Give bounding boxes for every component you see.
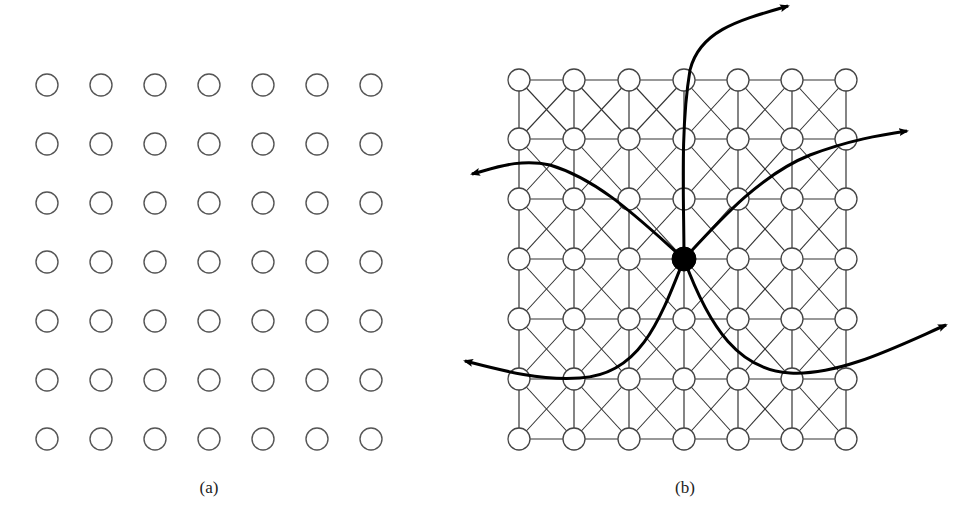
node-a (360, 428, 382, 450)
node-a (198, 133, 220, 155)
node-a (198, 369, 220, 391)
node-a (360, 133, 382, 155)
node-b (618, 368, 640, 390)
node-b (508, 428, 530, 450)
node-b (781, 188, 803, 210)
node-a (90, 133, 112, 155)
node-b (781, 128, 803, 150)
node-a (36, 74, 58, 96)
node-a (144, 369, 166, 391)
node-b (835, 69, 857, 91)
node-b (727, 428, 749, 450)
node-a (252, 74, 274, 96)
node-a (360, 369, 382, 391)
lattice-figure: (a) (b) (0, 0, 963, 527)
node-a (360, 310, 382, 332)
node-b (563, 128, 585, 150)
node-b (835, 308, 857, 330)
node-a (144, 133, 166, 155)
node-a (36, 310, 58, 332)
node-a (306, 251, 328, 273)
node-b (618, 248, 640, 270)
node-b (618, 308, 640, 330)
node-b (618, 188, 640, 210)
panel-a-label: (a) (200, 478, 219, 498)
panel-b-center-node (672, 247, 696, 271)
node-a (144, 74, 166, 96)
node-b (508, 69, 530, 91)
node-a (144, 192, 166, 214)
node-a (90, 251, 112, 273)
node-b (727, 248, 749, 270)
node-b (673, 368, 695, 390)
source-node (672, 247, 696, 271)
node-b (618, 69, 640, 91)
node-a (36, 133, 58, 155)
node-a (36, 369, 58, 391)
node-a (198, 310, 220, 332)
node-a (144, 310, 166, 332)
node-b (508, 308, 530, 330)
node-a (252, 428, 274, 450)
node-a (252, 251, 274, 273)
node-b (781, 248, 803, 270)
node-b (835, 368, 857, 390)
node-b (673, 69, 695, 91)
node-a (90, 74, 112, 96)
node-b (563, 188, 585, 210)
node-a (306, 74, 328, 96)
node-a (360, 192, 382, 214)
node-b (563, 69, 585, 91)
node-b (781, 308, 803, 330)
panel-b-propagation-paths (465, 6, 946, 379)
node-b (727, 308, 749, 330)
node-b (618, 128, 640, 150)
node-b (508, 248, 530, 270)
cropped-caption-text (0, 515, 963, 527)
panel-a-node-grid (36, 74, 382, 450)
node-b (835, 428, 857, 450)
node-a (306, 310, 328, 332)
node-b (781, 69, 803, 91)
node-b (727, 188, 749, 210)
node-a (198, 74, 220, 96)
node-b (835, 188, 857, 210)
node-b (781, 428, 803, 450)
node-a (36, 428, 58, 450)
node-a (306, 133, 328, 155)
panel-b-label: (b) (675, 478, 695, 498)
node-a (252, 310, 274, 332)
node-a (90, 428, 112, 450)
node-a (198, 428, 220, 450)
node-a (36, 192, 58, 214)
node-a (90, 369, 112, 391)
node-b (563, 428, 585, 450)
node-a (360, 74, 382, 96)
node-a (306, 192, 328, 214)
node-b (835, 248, 857, 270)
node-b (618, 428, 640, 450)
node-b (563, 308, 585, 330)
node-b (673, 308, 695, 330)
node-a (90, 310, 112, 332)
node-a (36, 251, 58, 273)
node-a (306, 428, 328, 450)
node-b (563, 248, 585, 270)
node-b (727, 128, 749, 150)
node-b (673, 428, 695, 450)
node-a (306, 369, 328, 391)
node-b (508, 128, 530, 150)
node-a (198, 192, 220, 214)
path-upper-left-arrow (472, 163, 684, 259)
node-a (360, 251, 382, 273)
node-a (144, 251, 166, 273)
node-b (727, 368, 749, 390)
node-a (252, 192, 274, 214)
node-a (252, 369, 274, 391)
node-a (252, 133, 274, 155)
node-b (508, 188, 530, 210)
node-a (90, 192, 112, 214)
node-a (198, 251, 220, 273)
figure-canvas (0, 0, 963, 527)
node-b (727, 69, 749, 91)
